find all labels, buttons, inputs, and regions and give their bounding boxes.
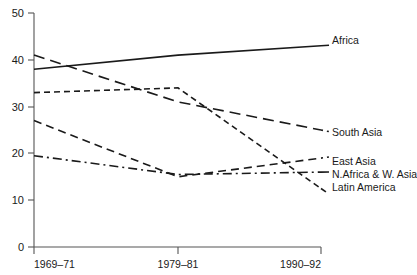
series-label-east-asia: East Asia <box>332 155 376 167</box>
y-tick-label-10: 10 <box>12 194 24 206</box>
series-line-n-africa-w-asia <box>34 156 321 175</box>
x-tick-label-3: 1990–92 <box>280 258 321 270</box>
x-tick-label-2: 1979–81 <box>158 258 199 270</box>
y-tick-label-50: 50 <box>12 7 24 19</box>
series-leader-latin-america <box>321 189 329 195</box>
series-leader-east-asia <box>321 157 329 158</box>
series-label-africa: Africa <box>332 34 359 46</box>
y-tick-label-40: 40 <box>12 54 24 66</box>
series-label-latin-america: Latin America <box>332 181 396 193</box>
y-axis <box>28 13 34 247</box>
series-line-east-asia <box>34 121 321 177</box>
line-chart: 50 40 30 20 10 0 1969–71 1979–81 1990–92… <box>0 0 417 275</box>
series-label-n-africa-w-asia: N.Africa & W. Asia <box>332 168 417 180</box>
x-axis <box>34 247 321 254</box>
series-line-south-asia <box>34 55 321 130</box>
y-tick-label-30: 30 <box>12 101 24 113</box>
series-line-africa <box>34 46 321 69</box>
series-leader-africa <box>321 45 329 46</box>
series-label-south-asia: South Asia <box>332 126 382 138</box>
x-tick-label-1: 1969–71 <box>34 258 75 270</box>
series-leader-south-asia <box>321 130 329 132</box>
y-tick-label-0: 0 <box>18 241 24 253</box>
chart-canvas: 50 40 30 20 10 0 1969–71 1979–81 1990–92… <box>0 0 417 275</box>
y-tick-label-20: 20 <box>12 147 24 159</box>
